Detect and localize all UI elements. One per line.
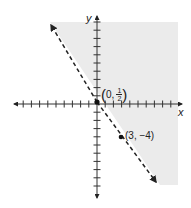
point-y-intercept xyxy=(94,99,99,104)
point-label-3-neg4: (3, −4) xyxy=(125,130,154,141)
fraction-denominator: 2 xyxy=(117,95,121,102)
point1-prefix: 0, xyxy=(106,89,114,100)
inequality-graph xyxy=(0,0,191,208)
x-axis-label: x xyxy=(178,106,184,118)
y-axis-label: y xyxy=(86,12,92,24)
point-label-y-intercept: (0,12) xyxy=(101,86,127,103)
point-3-neg4 xyxy=(119,135,124,140)
fraction-numerator: 1 xyxy=(117,87,121,94)
close-paren: ) xyxy=(122,86,127,103)
